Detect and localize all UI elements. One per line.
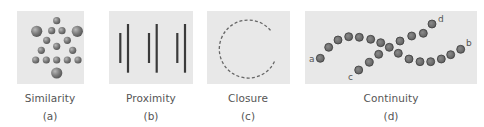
similarity-sublabel: (a) [0,110,100,122]
similarity-caption: Similarity [0,92,100,104]
closure-caption: Closure [198,92,298,104]
continuity-dots-graphic: a b c d [305,11,477,84]
proximity-panel [109,11,193,84]
point-label-d: d [438,14,444,24]
similarity-panel [17,11,84,84]
closure-dashed-arc-graphic [207,11,290,84]
continuity-sublabel: (d) [341,110,441,122]
continuity-panel: a b c d [305,11,477,84]
closure-panel [207,11,290,84]
point-label-b: b [466,38,472,48]
point-label-c: c [348,72,353,82]
proximity-sublabel: (b) [101,110,201,122]
closure-sublabel: (c) [198,110,298,122]
similarity-dots-graphic [17,11,84,84]
proximity-lines-graphic [109,11,193,84]
continuity-caption: Continuity [341,92,441,104]
proximity-caption: Proximity [101,92,201,104]
point-label-a: a [309,54,315,64]
